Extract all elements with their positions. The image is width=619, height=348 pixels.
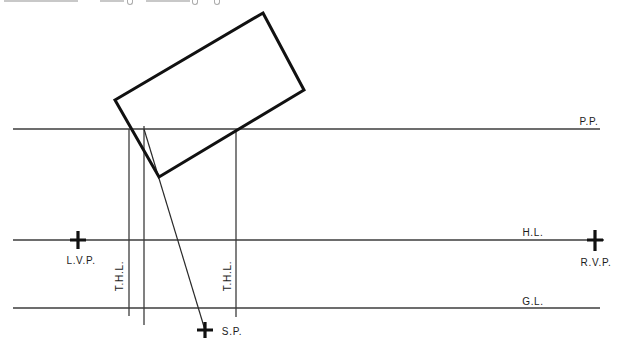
right-vanishing-point-mark	[587, 230, 603, 251]
left-vanishing-point-mark	[70, 231, 86, 249]
perspective-construction-diagram: P.P. H.L. G.L. L.V.P. R.V.P. S.P. T.H.L.…	[0, 0, 619, 348]
left-vanishing-point-label: L.V.P.	[66, 255, 95, 266]
picture-plane-label: P.P.	[579, 116, 598, 127]
horizon-line-label: H.L.	[522, 227, 543, 238]
true-height-line-label-right: T.H.L.	[222, 261, 233, 291]
station-point-mark	[197, 322, 213, 338]
right-vanishing-point-label: R.V.P.	[581, 257, 612, 268]
true-height-line-label-left: T.H.L.	[114, 261, 125, 291]
station-point-label: S.P.	[222, 326, 242, 337]
sight-line-to-station-point	[144, 129, 205, 330]
ground-line-label: G.L.	[522, 296, 544, 307]
plan-rectangle	[115, 13, 304, 177]
